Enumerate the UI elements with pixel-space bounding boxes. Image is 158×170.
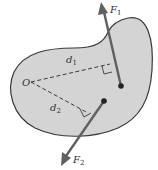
torque-diagram: O F1 F2 d1 d2 [0,0,158,170]
force-f1-arrowhead [98,2,108,15]
origin-label: O [22,77,30,88]
rigid-body [11,18,153,137]
force-f2-label: F2 [72,154,84,167]
force-f1-application-point [118,83,124,89]
force-f1-label: F1 [109,4,121,17]
force-f2-application-point [101,98,107,104]
